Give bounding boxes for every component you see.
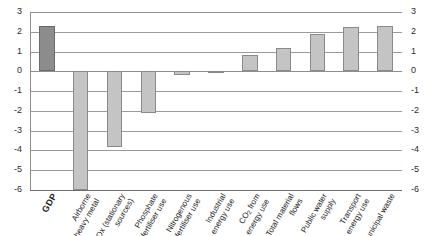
bar-2[interactable]	[107, 71, 123, 147]
bar-chart: 3210-1-2-3-4-5-6 3210-1-2-3-4-5-6 GDPAir…	[0, 0, 433, 236]
bar-9[interactable]	[343, 27, 359, 72]
y-tick-label-right--4: -4	[411, 145, 431, 154]
y-tick-label-right-1: 1	[411, 47, 431, 56]
y-tick-label-left--2: -2	[2, 106, 22, 115]
y-tick-label-right--1: -1	[411, 86, 431, 95]
plot-area	[30, 12, 402, 190]
y-tick-label-right--3: -3	[411, 126, 431, 135]
bar-7[interactable]	[276, 48, 292, 72]
y-tick-label-right--6: -6	[411, 185, 431, 194]
bar-3[interactable]	[141, 71, 157, 113]
y-tick-label-left-2: 2	[2, 27, 22, 36]
bar-4[interactable]	[174, 71, 190, 75]
y-tick-label-right-0: 0	[411, 66, 431, 75]
category-label-4: Nitrogenousfertiliser use	[165, 192, 203, 236]
category-label-5: Industrialenergy use	[200, 192, 236, 236]
y-tick-label-left--4: -4	[2, 145, 22, 154]
bar-5[interactable]	[208, 71, 224, 73]
y-tick-label-right-3: 3	[411, 7, 431, 16]
bar-0[interactable]	[39, 26, 55, 71]
y-axis-left: 3210-1-2-3-4-5-6	[0, 12, 26, 190]
bar-1[interactable]	[73, 71, 89, 190]
y-tick-label-left-3: 3	[2, 7, 22, 16]
y-tick-label-right--2: -2	[411, 106, 431, 115]
y-axis-line	[30, 12, 31, 190]
y-tick-label-left-0: 0	[2, 66, 22, 75]
category-label-line1-0: GDP	[40, 192, 59, 215]
category-label-1: Airborneheavy metal	[63, 192, 101, 236]
bar-10[interactable]	[377, 26, 393, 71]
y-tick-label-left--5: -5	[2, 165, 22, 174]
category-label-3: Phosphatefertiliser use	[131, 192, 169, 236]
bar-6[interactable]	[242, 55, 258, 72]
y-axis-right: 3210-1-2-3-4-5-6	[407, 12, 431, 190]
y-tick-label-right--5: -5	[411, 165, 431, 174]
gridline-3	[30, 12, 402, 13]
category-label-8: Public watersupply	[300, 192, 338, 236]
bar-8[interactable]	[310, 34, 326, 72]
category-axis: GDPAirborneheavy metalSOx (stationarysou…	[30, 192, 402, 236]
gridline--6	[30, 190, 402, 191]
category-label-0: GDP	[41, 192, 59, 214]
y-tick-label-left--3: -3	[2, 126, 22, 135]
y-tick-label-left--6: -6	[2, 185, 22, 194]
y-tick-label-right-2: 2	[411, 27, 431, 36]
y-tick-label-left--1: -1	[2, 86, 22, 95]
y-tick-label-left-1: 1	[2, 47, 22, 56]
